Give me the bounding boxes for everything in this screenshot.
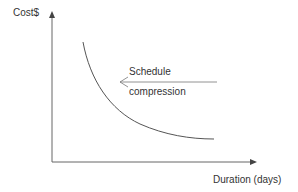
annotation-line2: compression: [129, 86, 186, 98]
y-axis-arrow-icon: [49, 11, 55, 18]
x-axis-arrow-icon: [250, 159, 257, 165]
x-axis: [52, 159, 257, 165]
y-axis-label: Cost$: [13, 7, 39, 19]
annotation-line1: Schedule: [129, 66, 171, 78]
x-axis-label: Duration (days): [213, 174, 281, 186]
y-axis: [49, 11, 55, 162]
